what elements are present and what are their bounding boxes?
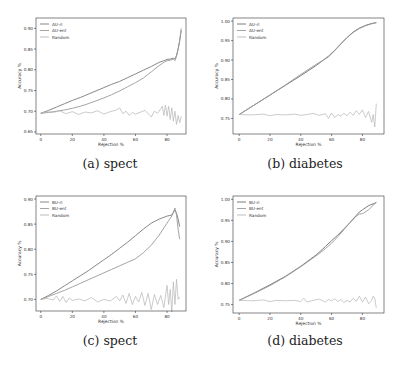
legend: AU-rlAU-entRandom bbox=[40, 22, 69, 40]
y-tick-label: 0.85 bbox=[24, 222, 34, 227]
x-tick-label: 80 bbox=[164, 137, 170, 142]
legend-label: AU-rl bbox=[52, 22, 62, 27]
y-tick-label: 0.90 bbox=[24, 26, 34, 31]
chart-panel-b: 0204060800.750.800.850.900.951.00Rejecti… bbox=[214, 18, 384, 147]
y-tick-label: 0.80 bbox=[221, 96, 231, 101]
series-line-random bbox=[239, 104, 376, 127]
x-tick-label: 20 bbox=[267, 137, 273, 142]
y-tick-label: 0.85 bbox=[24, 47, 34, 52]
figure: 0204060800.650.700.750.800.850.90Rejecti… bbox=[0, 0, 404, 368]
y-tick-label: 0.95 bbox=[221, 38, 231, 43]
y-tick-label: 1.00 bbox=[221, 197, 231, 202]
y-tick-label: 0.90 bbox=[221, 239, 231, 244]
y-tick-label: 1.00 bbox=[221, 19, 231, 24]
legend: AU-rlAU-entRandom bbox=[237, 22, 266, 40]
series-line-random bbox=[41, 279, 180, 312]
series-line-bu-ent bbox=[41, 208, 180, 299]
y-tick-label: 0.70 bbox=[24, 109, 34, 114]
legend-label: Random bbox=[52, 213, 69, 218]
x-tick-label: 60 bbox=[329, 316, 335, 321]
x-tick-label: 20 bbox=[70, 137, 76, 142]
y-tick-label: 0.75 bbox=[24, 88, 34, 93]
y-tick-label: 0.95 bbox=[221, 218, 231, 223]
y-tick-label: 0.80 bbox=[221, 281, 231, 286]
series-line-random bbox=[239, 296, 376, 308]
y-axis-label: Accuracy % bbox=[17, 241, 22, 267]
legend: BU-rlBU-entRandom bbox=[237, 200, 266, 218]
y-tick-label: 0.75 bbox=[221, 116, 231, 121]
series-line-bu-rl bbox=[41, 210, 180, 299]
y-axis-label: Accuracy % bbox=[214, 242, 219, 268]
y-tick-label: 0.90 bbox=[24, 197, 34, 202]
x-tick-label: 0 bbox=[238, 137, 241, 142]
y-axis-label: Accuracy % bbox=[17, 63, 22, 89]
caption-c: (c) spect bbox=[83, 333, 138, 348]
chart-panel-a: 0204060800.650.700.750.800.850.90Rejecti… bbox=[17, 18, 186, 147]
legend-label: BU-rl bbox=[52, 200, 62, 205]
chart-panel-c: 0204060800.700.750.800.850.90Rejection %… bbox=[17, 196, 186, 324]
y-tick-label: 0.65 bbox=[24, 129, 34, 134]
legend-label: AU-rl bbox=[249, 22, 259, 27]
x-axis-label: Rejection % bbox=[296, 321, 322, 326]
legend-label: Random bbox=[52, 35, 69, 40]
legend-label: BU-ent bbox=[52, 206, 67, 211]
x-tick-label: 80 bbox=[360, 137, 366, 142]
legend: BU-rlBU-entRandom bbox=[40, 200, 69, 218]
series-line-au-ent bbox=[41, 28, 182, 113]
x-tick-label: 20 bbox=[70, 314, 76, 319]
y-tick-label: 0.70 bbox=[24, 297, 34, 302]
x-tick-label: 0 bbox=[39, 137, 42, 142]
y-tick-label: 0.80 bbox=[24, 67, 34, 72]
y-tick-label: 0.80 bbox=[24, 247, 34, 252]
x-tick-label: 80 bbox=[164, 314, 170, 319]
chart-panel-d: 0204060800.750.800.850.900.951.00Rejecti… bbox=[214, 196, 384, 326]
legend-label: BU-ent bbox=[249, 206, 264, 211]
legend-label: AU-ent bbox=[249, 28, 264, 33]
y-tick-label: 0.90 bbox=[221, 58, 231, 63]
x-tick-label: 0 bbox=[238, 316, 241, 321]
caption-d: (d) diabetes bbox=[267, 333, 342, 348]
y-tick-label: 0.75 bbox=[24, 272, 34, 277]
y-tick-label: 0.85 bbox=[221, 260, 231, 265]
x-axis-label: Rejection % bbox=[98, 319, 124, 324]
x-axis-label: Rejection % bbox=[296, 142, 322, 147]
x-tick-label: 0 bbox=[39, 314, 42, 319]
y-tick-label: 0.85 bbox=[221, 77, 231, 82]
x-tick-label: 80 bbox=[360, 316, 366, 321]
legend-label: AU-ent bbox=[52, 28, 67, 33]
x-tick-label: 60 bbox=[329, 137, 335, 142]
legend-label: BU-rl bbox=[249, 200, 259, 205]
x-tick-label: 60 bbox=[133, 137, 139, 142]
x-tick-label: 20 bbox=[267, 316, 273, 321]
series-line-random bbox=[41, 105, 182, 124]
caption-b: (b) diabetes bbox=[267, 156, 342, 171]
x-axis-label: Rejection % bbox=[98, 142, 124, 147]
legend-label: Random bbox=[249, 35, 266, 40]
series-line-au-rl bbox=[41, 30, 182, 113]
y-tick-label: 0.75 bbox=[221, 302, 231, 307]
y-axis-label: Accuracy % bbox=[214, 63, 219, 89]
caption-a: (a) spect bbox=[82, 156, 137, 171]
legend-label: Random bbox=[249, 213, 266, 218]
x-tick-label: 60 bbox=[133, 314, 139, 319]
